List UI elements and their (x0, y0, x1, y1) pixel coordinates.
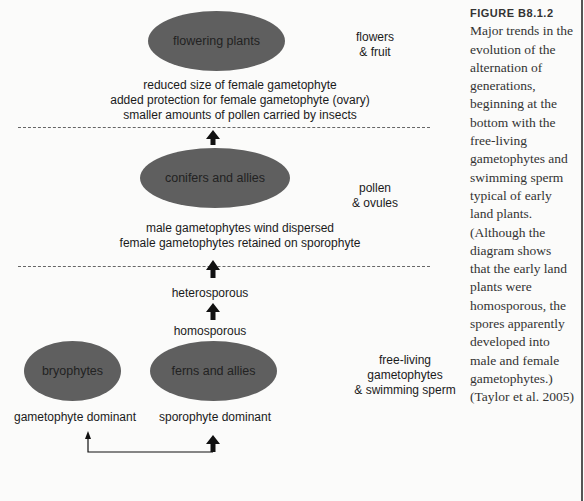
caption-line: generations, (470, 77, 580, 95)
caption-line: Major trends in the (470, 22, 580, 40)
page-edge-border (581, 0, 583, 501)
caption-line: swimming sperm (470, 169, 580, 187)
caption-line: developed into (470, 333, 580, 351)
caption-line: free-living (470, 132, 580, 150)
caption-line: typical of early (470, 187, 580, 205)
caption-line: gametophytes and (470, 150, 580, 168)
caption-line: (Taylor et al. 2005) (470, 388, 580, 406)
caption-line: gametophytes.) (470, 370, 580, 388)
figure-title: FIGURE B8.1.2 (470, 4, 580, 22)
small-up-arrow-icon (85, 431, 91, 439)
caption-line: bottom with the (470, 114, 580, 132)
caption-line: diagram shows (470, 242, 580, 260)
connector-line (88, 438, 213, 452)
caption-line: plants were (470, 278, 580, 296)
figure-caption: FIGURE B8.1.2 Major trends in the evolut… (470, 4, 580, 407)
caption-line: spores apparently (470, 315, 580, 333)
caption-line: male and female (470, 352, 580, 370)
up-arrow-icon (206, 130, 220, 452)
caption-line: evolution of the (470, 41, 580, 59)
caption-line: (Although the (470, 224, 580, 242)
caption-line: alternation of (470, 59, 580, 77)
caption-line: land plants. (470, 205, 580, 223)
caption-line: beginning at the (470, 95, 580, 113)
caption-line: that the early land (470, 260, 580, 278)
caption-line: homosporous, the (470, 297, 580, 315)
